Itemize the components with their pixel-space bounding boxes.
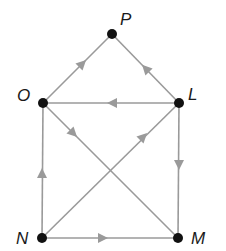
label-P: P (120, 10, 132, 29)
label-O: O (17, 86, 30, 105)
node-L (174, 98, 184, 108)
edge-L-M (178, 103, 179, 238)
arrow-icon-N-L (136, 129, 150, 143)
node-O (38, 98, 48, 108)
node-M (173, 233, 183, 243)
node-P (107, 29, 117, 39)
label-L: L (188, 85, 197, 104)
arrow-icon-N-O (37, 168, 47, 178)
arrow-icon-N-M (98, 233, 108, 243)
arrow-icon-L-M (174, 160, 184, 170)
edge-O-P (43, 34, 112, 103)
directed-graph: P O L N M (0, 0, 226, 251)
node-N (37, 233, 47, 243)
arrow-icon-L-O (107, 98, 117, 108)
label-N: N (16, 229, 29, 248)
label-M: M (191, 229, 206, 248)
